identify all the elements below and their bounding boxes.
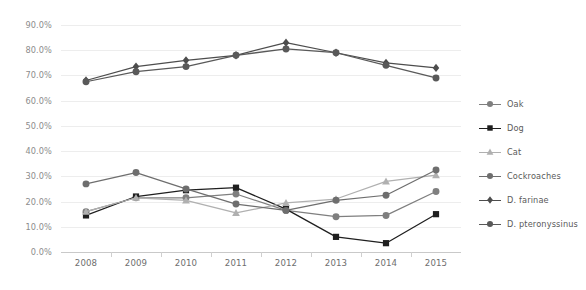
legend-item-cockroaches[interactable]: Cockroaches <box>479 164 583 188</box>
legend-swatch-icon <box>479 194 501 206</box>
data-point-marker <box>133 169 140 176</box>
data-point-marker <box>333 197 340 204</box>
y-axis-tick-label: 60.0% <box>0 96 52 106</box>
legend-item-label: D. pteronyssinus <box>507 219 578 229</box>
data-point-marker <box>183 185 190 192</box>
x-axis-tick-label: 2008 <box>63 258 109 268</box>
series-line <box>86 170 436 210</box>
legend-swatch-icon <box>479 218 501 230</box>
data-point-marker <box>383 240 389 246</box>
x-axis-tick-mark <box>311 252 312 257</box>
y-axis-tick-label: 90.0% <box>0 20 52 30</box>
data-point-marker <box>433 167 440 174</box>
legend-marker-circle-icon <box>486 172 494 180</box>
data-point-marker <box>183 63 190 70</box>
legend-swatch-icon <box>479 170 501 182</box>
legend-item-d-farinae[interactable]: D. farinae <box>479 188 583 212</box>
legend-item-dog[interactable]: Dog <box>479 116 583 140</box>
y-axis-tick-label: 80.0% <box>0 45 52 55</box>
y-axis-tick-label: 10.0% <box>0 222 52 232</box>
legend-item-label: Cat <box>507 147 521 157</box>
data-point-marker <box>83 180 90 187</box>
x-axis-tick-mark <box>111 252 112 257</box>
data-point-marker <box>383 192 390 199</box>
legend-item-d-pteronyssinus[interactable]: D. pteronyssinus <box>479 212 583 236</box>
y-axis-tick-label: 50.0% <box>0 121 52 131</box>
legend-marker-circle-icon <box>486 100 494 108</box>
x-axis-tick-label: 2014 <box>363 258 409 268</box>
data-point-marker <box>133 68 140 75</box>
data-point-marker <box>383 212 390 219</box>
series-cockroaches <box>83 167 440 214</box>
legend-item-label: Cockroaches <box>507 171 561 181</box>
y-axis-tick-label: 0.0% <box>0 247 52 257</box>
x-axis-tick-label: 2010 <box>163 258 209 268</box>
x-axis-tick-mark <box>411 252 412 257</box>
x-axis-tick-label: 2015 <box>413 258 459 268</box>
x-axis-tick-mark <box>211 252 212 257</box>
x-axis-tick-mark <box>261 252 262 257</box>
data-point-marker <box>333 213 340 220</box>
data-point-marker <box>83 78 90 85</box>
y-axis-tick-label: 20.0% <box>0 197 52 207</box>
y-axis-tick-label: 40.0% <box>0 146 52 156</box>
data-point-marker <box>233 191 240 198</box>
legend-swatch-icon <box>479 146 501 158</box>
x-axis-tick-label: 2013 <box>313 258 359 268</box>
x-axis-tick-label: 2011 <box>213 258 259 268</box>
legend-item-label: Oak <box>507 99 524 109</box>
chart-container: 0.0%10.0%20.0%30.0%40.0%50.0%60.0%70.0%8… <box>0 0 586 290</box>
data-point-marker <box>233 201 240 208</box>
legend-swatch-icon <box>479 98 501 110</box>
x-axis-tick-mark <box>161 252 162 257</box>
data-point-marker <box>433 74 440 81</box>
y-axis-tick-label: 30.0% <box>0 171 52 181</box>
series-d-farinae <box>83 38 440 84</box>
legend-marker-circle-icon <box>486 220 494 228</box>
legend-item-label: D. farinae <box>507 195 549 205</box>
legend-marker-diamond-icon <box>486 196 494 204</box>
series-line <box>86 43 436 81</box>
data-point-marker <box>433 64 440 72</box>
x-axis-tick-label: 2012 <box>263 258 309 268</box>
data-point-marker <box>333 49 340 56</box>
chart-legend: OakDogCatCockroachesD. farinaeD. pterony… <box>479 92 583 236</box>
data-point-marker <box>333 234 339 240</box>
data-point-marker <box>433 188 440 195</box>
series-lines <box>61 25 461 252</box>
legend-marker-square-icon <box>486 124 494 132</box>
x-axis-tick-label: 2009 <box>113 258 159 268</box>
x-axis-tick-mark <box>361 252 362 257</box>
legend-item-label: Dog <box>507 123 524 133</box>
plot-area <box>61 25 461 252</box>
data-point-marker <box>233 185 239 191</box>
data-point-marker <box>283 45 290 52</box>
legend-swatch-icon <box>479 122 501 134</box>
data-point-marker <box>433 211 439 217</box>
data-point-marker <box>283 207 290 214</box>
data-point-marker <box>233 52 240 59</box>
legend-marker-triangle-icon <box>486 148 494 156</box>
data-point-marker <box>383 62 390 69</box>
legend-item-cat[interactable]: Cat <box>479 140 583 164</box>
y-axis-tick-label: 70.0% <box>0 70 52 80</box>
legend-item-oak[interactable]: Oak <box>479 92 583 116</box>
